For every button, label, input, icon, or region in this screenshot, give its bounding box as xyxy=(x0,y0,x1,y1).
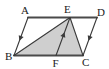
vertex-label-b: B xyxy=(5,50,12,62)
vertex-label-f: F xyxy=(53,57,59,69)
geometry-figure: A B C D E F xyxy=(0,0,109,69)
vertex-label-d: D xyxy=(97,6,105,18)
vertex-label-e: E xyxy=(64,3,71,15)
vertex-label-c: C xyxy=(82,56,89,68)
vertex-label-a: A xyxy=(21,4,29,16)
geometry-canvas: A B C D E F xyxy=(0,0,109,69)
